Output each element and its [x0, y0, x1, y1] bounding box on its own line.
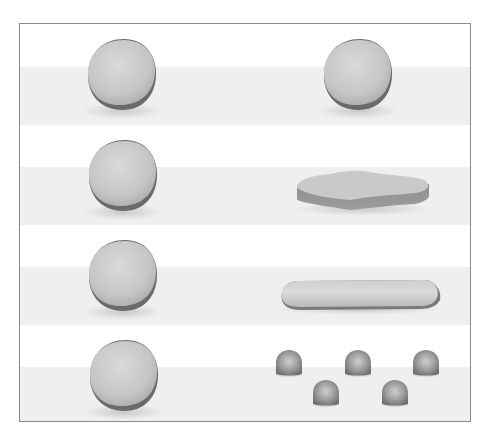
clay-sausage: [278, 280, 442, 315]
clay-ball-row2-left: [83, 140, 163, 220]
clay-ball-row1-right: [318, 39, 398, 119]
clay-scene: [0, 0, 490, 440]
clay-ball-row3-left: [83, 240, 163, 320]
clay-ball-row1-left: [82, 39, 162, 119]
clay-piece-1: [274, 350, 304, 378]
clay-pieces: [274, 350, 441, 408]
clay-pancake: [292, 171, 432, 216]
clay-piece-3: [411, 350, 441, 378]
clay-piece-4: [311, 380, 341, 408]
clay-piece-5: [380, 380, 410, 408]
clay-piece-2: [343, 350, 373, 378]
clay-ball-row4-left: [84, 340, 164, 420]
